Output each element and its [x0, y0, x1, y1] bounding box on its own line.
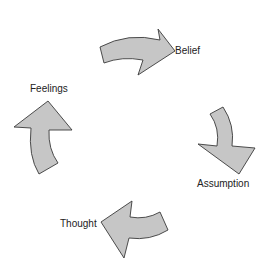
curved-arrow-down-icon — [198, 107, 255, 174]
node-label-belief: Belief — [175, 46, 200, 56]
diagram-canvas — [0, 0, 272, 273]
node-label-feelings: Feelings — [30, 84, 68, 94]
node-label-assumption: Assumption — [197, 179, 249, 189]
curved-arrow-right-icon — [100, 29, 175, 75]
node-label-thought: Thought — [60, 219, 97, 229]
curved-arrow-left-icon — [101, 201, 168, 258]
curved-arrow-up-icon — [14, 101, 72, 174]
